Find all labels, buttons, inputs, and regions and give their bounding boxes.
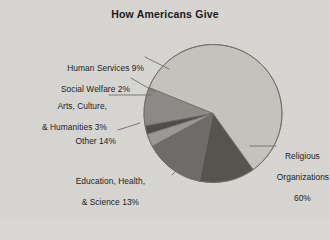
- label-religious-organizations-line3: 60%: [294, 193, 311, 203]
- leader-line-other: [118, 123, 140, 130]
- label-education-health-science-line2: & Science 13%: [82, 197, 139, 207]
- label-human-services-line1: Human Services 9%: [67, 63, 144, 73]
- label-education-health-science: Education, Health, & Science 13%: [48, 165, 168, 207]
- label-religious-organizations-line1: Religious: [285, 151, 320, 161]
- label-religious-organizations-line2: Organizations: [277, 172, 329, 182]
- label-other: Other 14%: [30, 125, 116, 146]
- label-arts-culture-line1: Arts, Culture,: [57, 101, 107, 111]
- label-religious-organizations: Religious Organizations 60%: [272, 140, 328, 203]
- label-human-services: Human Services 9%: [10, 52, 144, 73]
- label-education-health-science-line1: Education, Health,: [76, 176, 145, 186]
- label-other-line1: Other 14%: [76, 136, 117, 146]
- pie-slices: [144, 45, 282, 183]
